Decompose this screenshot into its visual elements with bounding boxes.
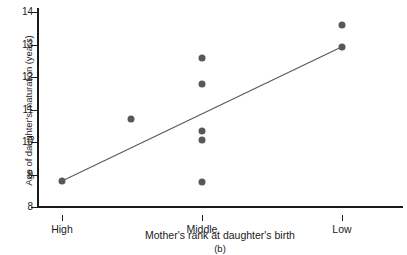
data-point	[339, 43, 346, 50]
panel-caption: (b)	[37, 243, 403, 254]
data-point	[199, 128, 206, 135]
x-tick-mark	[342, 215, 343, 221]
x-tick-mark	[62, 215, 63, 221]
data-point	[199, 137, 206, 144]
y-tick-label: 12	[22, 72, 33, 82]
data-point	[127, 116, 134, 123]
y-tick-label: 8	[27, 202, 33, 212]
trend-line	[37, 8, 402, 207]
y-tick-label: 14	[22, 7, 33, 17]
data-point	[339, 22, 346, 29]
data-point	[199, 81, 206, 88]
y-tick-label: 13	[22, 40, 33, 50]
data-point	[199, 54, 206, 61]
y-tick-label: 9	[27, 170, 33, 180]
x-tick-mark	[202, 215, 203, 221]
data-point	[199, 178, 206, 185]
y-tick-label: 11	[23, 105, 33, 115]
x-axis-title: Mother's rank at daughter's birth	[37, 229, 403, 241]
plot-area: 891011121314 HighMiddleLow	[37, 8, 402, 207]
y-tick-label: 10	[22, 137, 33, 147]
data-point	[59, 178, 66, 185]
scatter-plot-figure: Age of daughter's maturation (years) 891…	[0, 0, 407, 255]
